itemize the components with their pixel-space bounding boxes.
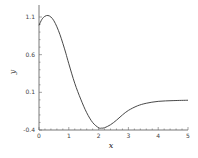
x-tick-label: 2 — [97, 132, 101, 139]
ticks — [39, 17, 188, 130]
data-line — [39, 15, 188, 128]
y-tick-label: 0.1 — [25, 88, 35, 95]
y-tick-label: 0.6 — [25, 51, 35, 58]
axes — [39, 5, 188, 130]
x-tick-label: 0 — [37, 132, 41, 139]
x-tick-label: 5 — [186, 132, 190, 139]
y-tick-label: 1.1 — [25, 13, 35, 20]
x-tick-label: 4 — [156, 132, 160, 139]
x-axis-label: x — [109, 141, 114, 150]
y-tick-label: -0.4 — [23, 126, 35, 133]
y-axis-label: y — [8, 69, 17, 75]
tick-labels: 012345-0.40.10.61.1 — [23, 13, 190, 139]
x-tick-label: 3 — [126, 132, 130, 139]
line-chart: 012345-0.40.10.61.1 x y — [0, 0, 198, 158]
x-tick-label: 1 — [67, 132, 71, 139]
